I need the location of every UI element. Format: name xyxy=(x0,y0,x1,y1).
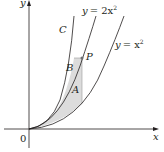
curve-x2-label: y= x2 xyxy=(114,38,144,50)
origin-label: 0 xyxy=(20,133,26,144)
curve-c-label: C xyxy=(59,24,67,35)
point-p xyxy=(81,57,84,60)
region-b-label: B xyxy=(65,62,73,73)
curve-2x2-label: y= 2x2 xyxy=(81,4,117,16)
y-axis-label: y xyxy=(19,0,26,8)
parabola-region-diagram: y x 0 C y= 2x2 y= x2 P B A xyxy=(0,0,164,152)
point-p-label: P xyxy=(85,51,93,62)
y-axis-arrow-icon xyxy=(27,0,31,6)
x-axis-label: x xyxy=(153,131,159,142)
region-a-label: A xyxy=(71,84,79,95)
